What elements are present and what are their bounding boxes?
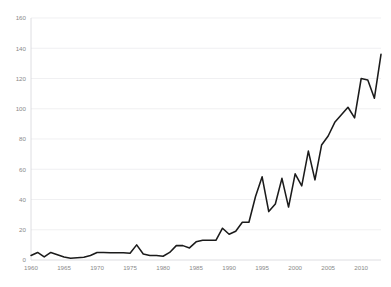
y-axis-tick-label: 20	[19, 226, 26, 233]
y-axis-tick-label: 80	[19, 135, 26, 142]
y-axis-tick-label: 100	[16, 105, 27, 112]
data-series-line	[31, 54, 381, 258]
y-axis-tick-label: 160	[16, 14, 27, 21]
x-axis-tick-label: 2010	[354, 264, 368, 271]
y-axis-tick-label: 140	[16, 45, 27, 52]
y-axis-tick-label: 60	[19, 166, 26, 173]
x-axis-tick-label: 2005	[321, 264, 335, 271]
x-axis-tick-label: 1980	[156, 264, 170, 271]
x-axis-tick-label: 2000	[288, 264, 302, 271]
y-axis-tick-label: 0	[23, 256, 27, 263]
gridlines	[31, 18, 381, 230]
x-axis-tick-label: 1990	[222, 264, 236, 271]
x-axis-tick-label: 1995	[255, 264, 269, 271]
x-axis-tick-label: 1985	[189, 264, 203, 271]
x-axis-tick-label: 1970	[90, 264, 104, 271]
x-axis-tick-label: 1975	[123, 264, 137, 271]
chart-container: 020406080100120140160 196019651970197519…	[0, 0, 391, 287]
y-axis-tick-labels: 020406080100120140160	[16, 14, 27, 263]
y-axis-tick-label: 40	[19, 196, 26, 203]
x-axis-tick-labels: 1960196519701975198019851990199520002005…	[24, 264, 369, 271]
x-axis-tick-label: 1960	[24, 264, 38, 271]
line-chart: 020406080100120140160 196019651970197519…	[0, 0, 391, 287]
x-axis-tick-label: 1965	[57, 264, 71, 271]
y-axis-tick-label: 120	[16, 75, 27, 82]
